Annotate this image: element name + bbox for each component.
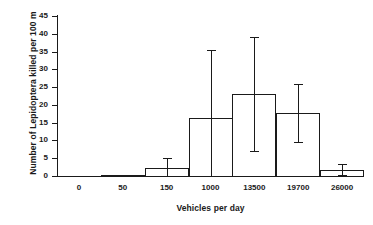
error-bar-cap-upper xyxy=(163,158,172,159)
y-axis-tick-label: 5 xyxy=(22,154,48,162)
x-axis-tick-label: 19700 xyxy=(273,183,323,192)
error-bar-cap-lower xyxy=(250,151,259,152)
y-axis-tick xyxy=(52,87,57,88)
error-bar-cap-lower xyxy=(294,142,303,143)
error-bar-stem xyxy=(254,37,255,151)
error-bar-stem xyxy=(342,164,343,175)
y-axis-tick-label: 35 xyxy=(22,48,48,56)
y-axis-tick-label: 10 xyxy=(22,136,48,144)
y-axis-tick-label: 40 xyxy=(22,30,48,38)
error-bar-cap-lower xyxy=(338,175,347,176)
y-axis-tick xyxy=(52,52,57,53)
y-axis-tick-label: 30 xyxy=(22,65,48,73)
x-axis-tick-label: 26000 xyxy=(317,183,367,192)
bar xyxy=(101,175,145,176)
x-axis-tick-label: 1000 xyxy=(186,183,236,192)
error-bar-stem xyxy=(298,84,299,142)
error-bar-cap-upper xyxy=(207,50,216,51)
x-axis-tick-label: 150 xyxy=(142,183,192,192)
y-axis-tick-label: 20 xyxy=(22,101,48,109)
bar xyxy=(57,176,101,177)
y-axis-tick-label: 45 xyxy=(22,12,48,20)
x-axis-tick-label: 50 xyxy=(98,183,148,192)
chart-figure: Number of Lepidoptera killed per 100 m V… xyxy=(0,0,373,225)
error-bar-cap-upper xyxy=(338,164,347,165)
error-bar-stem xyxy=(167,158,168,176)
x-axis-tick-label: 0 xyxy=(54,183,104,192)
x-axis-line xyxy=(57,176,364,177)
x-axis-title: Vehicles per day xyxy=(57,203,364,213)
y-axis-tick xyxy=(52,16,57,17)
y-axis-tick xyxy=(52,69,57,70)
y-axis-tick xyxy=(52,105,57,106)
y-axis-tick-label: 0 xyxy=(22,172,48,180)
x-axis-tick-label: 13500 xyxy=(229,183,279,192)
error-bar-cap-upper xyxy=(294,84,303,85)
y-axis-tick xyxy=(52,123,57,124)
y-axis-tick xyxy=(52,34,57,35)
y-axis-line xyxy=(57,15,58,177)
y-axis-tick-label: 25 xyxy=(22,83,48,91)
y-axis-tick-label: 15 xyxy=(22,119,48,127)
y-axis-tick xyxy=(52,158,57,159)
error-bar-cap-upper xyxy=(250,37,259,38)
y-axis-tick xyxy=(52,140,57,141)
error-bar-stem xyxy=(211,50,212,176)
